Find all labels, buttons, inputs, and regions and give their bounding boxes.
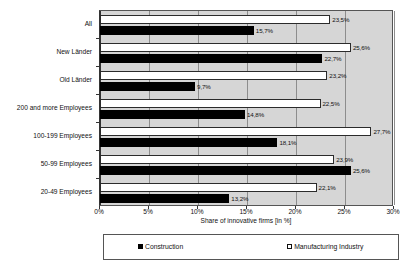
x-tick-label: 25% <box>337 209 350 216</box>
bar-construction <box>100 166 351 175</box>
bar-value-construction: 15,7% <box>256 27 273 33</box>
bar-manufacturing <box>100 155 334 164</box>
category-label: 50-99 Employees <box>41 161 92 168</box>
x-axis-title: Share of innovative firms [in %] <box>99 218 393 225</box>
bar-construction <box>100 194 229 203</box>
legend-label-manufacturing: Manufacturing Industry <box>294 244 363 251</box>
bar-row: 23,9%25,6% <box>100 151 392 179</box>
bar-construction <box>100 82 195 91</box>
bar-value-construction: 13,2% <box>231 195 248 201</box>
x-tick-label: 10% <box>190 209 203 216</box>
x-tick-label: 5% <box>143 209 153 216</box>
bar-group-manufacturing: 23,5% <box>100 15 392 24</box>
bar-group-manufacturing: 22,5% <box>100 99 392 108</box>
bar-construction <box>100 26 254 35</box>
category-label: New Länder <box>56 49 92 56</box>
category-axis-labels: AllNew LänderOld Länder200 and more Empl… <box>0 10 96 206</box>
legend-label-construction: Construction <box>145 244 183 251</box>
bar-group-manufacturing: 23,2% <box>100 71 392 80</box>
bar-rows: 23,5%15,7%25,6%22,7%23,2%9,7%22,5%14,8%2… <box>100 11 392 205</box>
bar-manufacturing <box>100 43 351 52</box>
legend-swatch-construction-icon <box>138 244 143 249</box>
bar-row: 27,7%18,1% <box>100 123 392 151</box>
bar-group-manufacturing: 23,9% <box>100 155 392 164</box>
bar-row: 23,5%15,7% <box>100 11 392 39</box>
bar-group-construction: 15,7% <box>100 26 392 35</box>
bar-value-construction: 9,7% <box>197 83 211 89</box>
gridline-30 <box>394 11 395 205</box>
category-label: 20-49 Employees <box>41 189 92 196</box>
bar-value-manufacturing: 23,5% <box>332 16 349 22</box>
bar-manufacturing <box>100 99 321 108</box>
category-label: 200 and more Employees <box>17 105 92 112</box>
x-tick-label: 20% <box>288 209 301 216</box>
plot-area: 23,5%15,7%25,6%22,7%23,2%9,7%22,5%14,8%2… <box>99 10 393 206</box>
bar-value-manufacturing: 22,1% <box>319 184 336 190</box>
bar-row: 22,5%14,8% <box>100 95 392 123</box>
x-tick-label: 0% <box>94 209 104 216</box>
bar-group-manufacturing: 22,1% <box>100 183 392 192</box>
bar-manufacturing <box>100 183 317 192</box>
x-tick-label: 15% <box>239 209 252 216</box>
category-label: 100-199 Employees <box>33 133 92 140</box>
bar-chart-figure: AllNew LänderOld Länder200 and more Empl… <box>0 0 419 265</box>
bar-value-construction: 22,7% <box>324 55 341 61</box>
bar-construction <box>100 110 245 119</box>
bar-construction <box>100 138 277 147</box>
bar-row: 23,2%9,7% <box>100 67 392 95</box>
legend-item-construction: Construction <box>138 244 183 251</box>
chart-legend: Construction Manufacturing Industry <box>103 234 399 260</box>
legend-item-manufacturing: Manufacturing Industry <box>287 244 363 251</box>
bar-manufacturing <box>100 127 371 136</box>
bar-group-construction: 18,1% <box>100 138 392 147</box>
bar-group-construction: 25,6% <box>100 166 392 175</box>
bar-value-manufacturing: 25,6% <box>353 44 370 50</box>
bar-group-manufacturing: 25,6% <box>100 43 392 52</box>
category-label: All <box>85 21 92 28</box>
bar-group-construction: 9,7% <box>100 82 392 91</box>
bar-value-manufacturing: 27,7% <box>373 128 390 134</box>
bar-group-construction: 14,8% <box>100 110 392 119</box>
bar-manufacturing <box>100 15 330 24</box>
plot-area-wrapper: 23,5%15,7%25,6%22,7%23,2%9,7%22,5%14,8%2… <box>99 10 393 206</box>
bar-value-manufacturing: 23,9% <box>336 156 353 162</box>
bar-value-manufacturing: 22,5% <box>323 100 340 106</box>
bar-manufacturing <box>100 71 327 80</box>
bar-group-construction: 22,7% <box>100 54 392 63</box>
bar-group-manufacturing: 27,7% <box>100 127 392 136</box>
bar-value-manufacturing: 23,2% <box>329 72 346 78</box>
bar-row: 22,1%13,2% <box>100 179 392 207</box>
bar-group-construction: 13,2% <box>100 194 392 203</box>
bar-value-construction: 25,6% <box>353 167 370 173</box>
bar-value-construction: 18,1% <box>279 139 296 145</box>
bar-construction <box>100 54 322 63</box>
x-tick-label: 30% <box>386 209 399 216</box>
bar-value-construction: 14,8% <box>247 111 264 117</box>
bar-row: 25,6%22,7% <box>100 39 392 67</box>
category-label: Old Länder <box>59 77 92 84</box>
legend-swatch-manufacturing-icon <box>287 244 292 249</box>
